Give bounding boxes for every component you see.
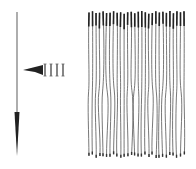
pointer-marker-icon	[23, 64, 65, 76]
fiber-illustration	[0, 0, 196, 169]
down-arrow-icon	[15, 12, 20, 156]
fiber-bundle	[88, 11, 185, 158]
